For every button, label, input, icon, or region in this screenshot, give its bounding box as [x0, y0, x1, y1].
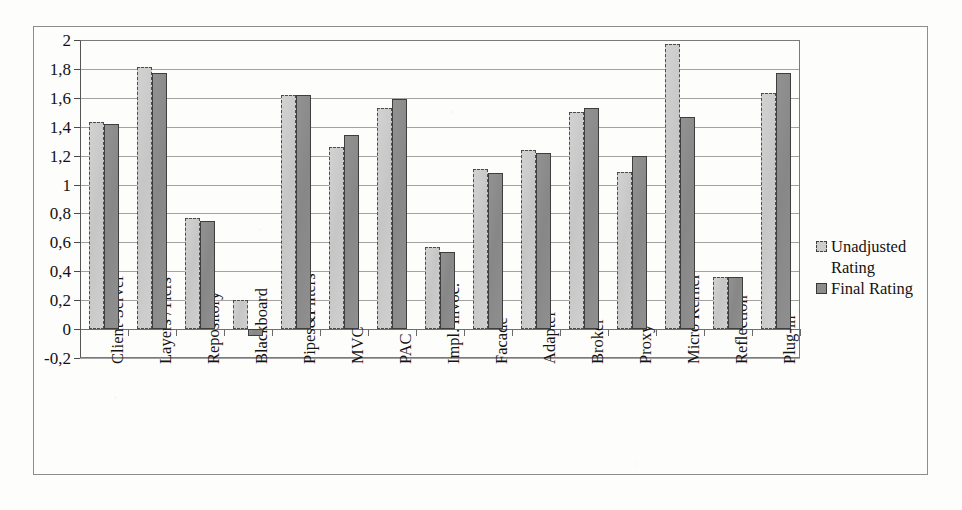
x-axis-tick: [512, 329, 513, 336]
y-axis-tick: [74, 271, 80, 272]
gridline: [80, 40, 800, 41]
y-axis-tick-label: 2: [63, 32, 72, 49]
x-axis-tick: [224, 329, 225, 336]
legend-swatch-icon: [816, 241, 827, 252]
y-axis-tick: [74, 185, 80, 186]
y-axis-tick-label: 1: [63, 176, 72, 193]
bar: [200, 221, 215, 329]
bar: [296, 95, 311, 329]
x-axis-tick: [560, 329, 561, 336]
x-axis-tick: [656, 329, 657, 336]
bar: [377, 108, 392, 329]
y-axis-tick: [74, 98, 80, 99]
bar: [344, 135, 359, 329]
y-axis-tick: [74, 69, 80, 70]
bar: [185, 218, 200, 329]
y-axis-tick-label: 0,8: [50, 205, 71, 222]
y-axis-tick: [74, 329, 80, 330]
x-axis-category-label: PAC: [398, 333, 415, 364]
gridline: [80, 98, 800, 99]
x-axis-category-label: Blackboard: [254, 288, 271, 364]
x-axis-tick: [800, 329, 801, 336]
bar: [104, 124, 119, 329]
bar: [488, 173, 503, 329]
bar: [680, 117, 695, 329]
bar: [713, 277, 728, 329]
bar: [665, 44, 680, 329]
bar: [392, 99, 407, 329]
bar: [776, 73, 791, 329]
y-axis-tick: [74, 213, 80, 214]
bar: [761, 93, 776, 329]
bar: [728, 277, 743, 329]
y-axis-tick-label: 1,4: [50, 118, 71, 135]
gridline: [80, 69, 800, 70]
bar: [248, 329, 263, 336]
x-axis-tick: [416, 329, 417, 336]
bar: [440, 252, 455, 329]
bar: [569, 112, 584, 329]
y-axis-tick: [74, 358, 80, 359]
x-axis-tick: [704, 329, 705, 336]
bar: [89, 122, 104, 329]
x-axis-tick: [176, 329, 177, 336]
y-axis-tick-label: 0: [63, 321, 72, 338]
y-axis-tick-label: 0,6: [50, 234, 71, 251]
legend-item-label: Final Rating: [831, 278, 913, 299]
bar: [281, 95, 296, 329]
bar: [632, 156, 647, 329]
chart-legend: Unadjusted RatingFinal Rating: [816, 236, 928, 299]
x-axis-tick: [368, 329, 369, 336]
bar: [617, 172, 632, 330]
bar: [329, 147, 344, 329]
legend-item-label: Unadjusted Rating: [831, 236, 906, 278]
y-axis-tick-label: 0,2: [50, 292, 71, 309]
x-axis-category-label: Proxy: [638, 325, 655, 364]
legend-item: Unadjusted Rating: [816, 236, 928, 278]
bar: [536, 153, 551, 329]
x-axis-tick: [128, 329, 129, 336]
bar: [152, 73, 167, 329]
y-axis-tick: [74, 127, 80, 128]
x-axis-tick: [320, 329, 321, 336]
bar: [137, 67, 152, 329]
x-axis-tick: [272, 329, 273, 336]
y-axis-tick: [74, 156, 80, 157]
legend-swatch-icon: [816, 283, 827, 294]
legend-item: Final Rating: [816, 278, 928, 299]
y-axis-tick-label: 0,4: [50, 263, 71, 280]
y-axis-tick-label: 1,2: [50, 147, 71, 164]
y-axis-tick-label: -0,2: [44, 350, 71, 367]
x-axis-tick: [464, 329, 465, 336]
y-axis-tick-label: 1,8: [50, 60, 71, 77]
bar: [521, 150, 536, 329]
bar-chart: 21,81,61,41,210,80,60,40,20-0,2: [80, 40, 800, 358]
y-axis-tick: [74, 242, 80, 243]
x-axis-category-label: MVC: [350, 326, 367, 364]
bar: [584, 108, 599, 329]
bar: [425, 247, 440, 329]
bar: [473, 169, 488, 329]
x-axis-tick: [752, 329, 753, 336]
y-axis-tick: [74, 40, 80, 41]
bar: [233, 300, 248, 329]
y-axis-tick-label: 1,6: [50, 89, 71, 106]
x-axis-tick: [608, 329, 609, 336]
y-axis-tick: [74, 300, 80, 301]
